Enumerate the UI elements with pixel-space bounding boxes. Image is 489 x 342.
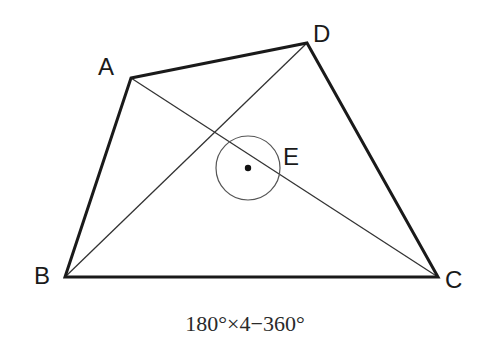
label-d: D xyxy=(313,20,330,47)
label-c: C xyxy=(445,266,462,293)
diagonal-ac xyxy=(131,78,438,277)
label-b: B xyxy=(34,262,50,289)
label-e: E xyxy=(283,143,299,170)
label-a: A xyxy=(98,53,114,80)
quadrilateral-diagram: A D B C E 180°×4−360° xyxy=(0,0,489,342)
point-e-dot xyxy=(245,165,251,171)
quadrilateral-abcd xyxy=(65,43,438,277)
formula-caption: 180°×4−360° xyxy=(185,311,304,336)
